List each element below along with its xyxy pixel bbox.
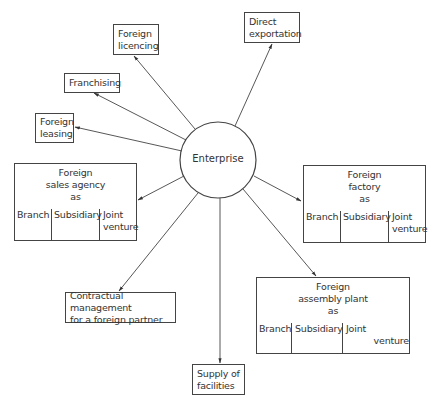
node-foreign-sales-agency: Foreign sales agency as Branch Subsidiar…: [14, 163, 137, 241]
node-franchising-line1: Franchising: [69, 77, 115, 89]
node-foreign-factory-title: Foreign factory as: [304, 169, 425, 205]
node-contractual-management-line1: Contractual management: [70, 290, 171, 314]
divider: [340, 211, 341, 242]
arrow-franchising: [94, 93, 186, 140]
option-subsidiary: Subsidiary: [54, 209, 102, 240]
divider: [51, 209, 52, 240]
node-foreign-licencing-line1: Foreign: [118, 28, 154, 40]
node-foreign-factory: Foreign factory as Branch Subsidiary Joi…: [303, 165, 426, 243]
node-foreign-leasing-line2: leasing: [40, 128, 69, 140]
arrow-foreign-sales-agency: [138, 176, 184, 200]
arrow-direct-exportation: [235, 44, 272, 126]
node-foreign-licencing-line2: licencing: [118, 40, 154, 52]
node-foreign-licencing: Foreign licencing: [113, 24, 159, 55]
enterprise-label: Enterprise: [180, 153, 256, 164]
node-direct-exportation: Direct exportation: [244, 12, 300, 43]
arrow-foreign-leasing: [75, 127, 182, 151]
node-direct-exportation-line1: Direct: [249, 16, 295, 28]
node-foreign-assembly-plant: Foreign assembly plant as Branch Subsidi…: [256, 277, 410, 354]
node-foreign-sales-agency-title: Foreign sales agency as: [15, 167, 136, 203]
node-foreign-leasing-line1: Foreign: [40, 116, 69, 128]
node-supply-of-facilities: Supply of facilities: [192, 364, 245, 395]
option-joint-venture: Jointventure: [392, 211, 426, 242]
node-direct-exportation-line2: exportation: [249, 28, 295, 40]
option-joint-venture: Jointventure: [103, 209, 137, 240]
node-contractual-management-line2: for a foreign partner: [70, 314, 171, 326]
option-joint-venture: Jointventure: [346, 323, 409, 353]
option-subsidiary: Subsidiary: [295, 323, 343, 353]
option-branch: Branch: [17, 209, 49, 240]
node-foreign-leasing: Foreign leasing: [35, 113, 74, 143]
node-foreign-assembly-plant-title: Foreign assembly plant as: [257, 281, 409, 317]
node-franchising: Franchising: [64, 73, 120, 93]
option-subsidiary: Subsidiary: [343, 211, 391, 242]
arrow-foreign-factory: [254, 176, 301, 201]
option-branch: Branch: [259, 323, 291, 353]
option-branch: Branch: [306, 211, 338, 242]
node-contractual-management: Contractual management for a foreign par…: [65, 292, 176, 323]
node-supply-of-facilities-line2: facilities: [197, 380, 240, 392]
node-supply-of-facilities-line1: Supply of: [197, 368, 240, 380]
